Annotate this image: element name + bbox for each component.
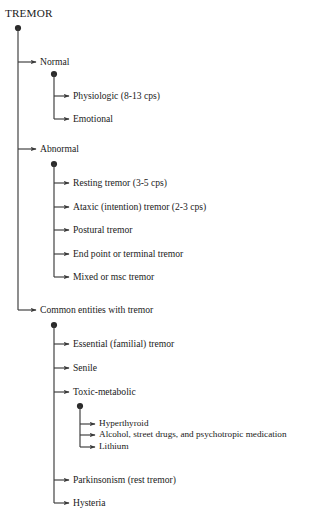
node-resting-tremor: Resting tremor (3-5 cps) — [73, 178, 167, 188]
node-lithium: Lithium — [99, 442, 129, 451]
node-emotional: Emotional — [73, 114, 113, 124]
node-physiologic: Physiologic (8-13 cps) — [73, 91, 160, 101]
root-trunk — [15, 25, 21, 310]
node-senile: Senile — [73, 363, 97, 373]
node-hyperthyroid: Hyperthyroid — [99, 419, 149, 428]
normal-subtrunk — [51, 71, 69, 119]
node-common-entities-with-tremor: Common entities with tremor — [40, 305, 153, 315]
node-end-point-or-terminal-tremor: End point or terminal tremor — [73, 249, 183, 259]
tremor-classification-diagram: TREMOR Normal Abnormal Common entities w… — [0, 0, 323, 522]
tree-connector-lines — [0, 0, 323, 522]
node-alcohol-street-drugs-psychotropic-medication: Alcohol, street drugs, and psychotropic … — [99, 430, 287, 439]
level1-connectors — [18, 62, 36, 310]
node-essential-familial-tremor: Essential (familial) tremor — [73, 339, 174, 349]
toxic-metabolic-subtrunk — [77, 403, 95, 447]
node-toxic-metabolic: Toxic-metabolic — [73, 387, 136, 397]
node-hysteria: Hysteria — [73, 498, 106, 508]
node-ataxic-intention-tremor: Ataxic (intention) tremor (2-3 cps) — [73, 202, 206, 212]
node-abnormal: Abnormal — [40, 144, 79, 154]
node-postural-tremor: Postural tremor — [73, 225, 132, 235]
node-parkinsonism-rest-tremor: Parkinsonism (rest tremor) — [73, 475, 176, 485]
node-mixed-or-msc-tremor: Mixed or msc tremor — [73, 272, 154, 282]
abnormal-subtrunk — [51, 161, 69, 277]
node-normal: Normal — [40, 57, 69, 67]
diagram-title: TREMOR — [5, 8, 53, 19]
common-entities-subtrunk — [51, 322, 69, 503]
